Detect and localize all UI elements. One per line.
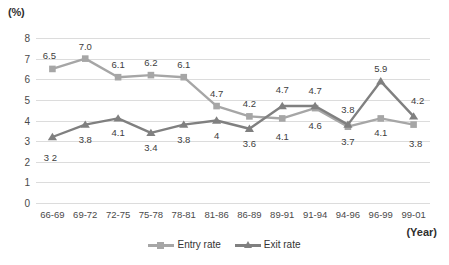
x-axis-tick-label: 66-69 bbox=[40, 209, 64, 220]
plot-area bbox=[36, 38, 430, 203]
gridline bbox=[36, 162, 430, 163]
data-point-label: 6.2 bbox=[144, 57, 157, 68]
data-point-label: 4.1 bbox=[374, 127, 387, 138]
x-axis-tick-labels: 66-6969-7272-7575-7878-8181-8686-8989-91… bbox=[36, 209, 430, 225]
gridline bbox=[36, 79, 430, 80]
exit-rate-marker-icon bbox=[235, 240, 261, 250]
x-axis-tick-label: 75-78 bbox=[139, 209, 163, 220]
legend-item-exit-rate[interactable]: Exit rate bbox=[235, 240, 301, 250]
y-axis-tick-label: 0 bbox=[6, 198, 30, 209]
legend-label-exit-rate: Exit rate bbox=[264, 240, 301, 250]
data-point-label: 3.6 bbox=[243, 137, 256, 148]
data-point-label: 3.7 bbox=[341, 135, 354, 146]
y-axis-tick-label: 2 bbox=[6, 156, 30, 167]
legend-item-entry-rate[interactable]: Entry rate bbox=[148, 240, 220, 250]
data-point-label: 4.6 bbox=[308, 120, 321, 131]
data-point-label: 4.2 bbox=[411, 95, 424, 106]
x-axis-tick-label: 69-72 bbox=[73, 209, 97, 220]
gridline bbox=[36, 100, 430, 101]
gridline bbox=[36, 141, 430, 142]
data-point-label: 6.1 bbox=[111, 59, 124, 70]
y-axis-tick-label: 1 bbox=[6, 177, 30, 188]
data-point-label: 3.8 bbox=[341, 103, 354, 114]
gridline bbox=[36, 59, 430, 60]
x-axis-tick-label: 91-94 bbox=[303, 209, 327, 220]
y-axis-tick-labels: 876543210 bbox=[0, 38, 30, 203]
data-point-label: 3.8 bbox=[409, 137, 422, 148]
data-point-label: 6.1 bbox=[177, 59, 190, 70]
x-axis-tick-label: 86-89 bbox=[237, 209, 261, 220]
data-point-label: 4.2 bbox=[243, 98, 256, 109]
y-axis-tick-label: 6 bbox=[6, 74, 30, 85]
y-axis-tick-label: 3 bbox=[6, 136, 30, 147]
x-axis-tick-label: 78-81 bbox=[172, 209, 196, 220]
y-axis-tick-label: 7 bbox=[6, 53, 30, 64]
x-axis-tick-label: 94-96 bbox=[336, 209, 360, 220]
x-axis-tick-label: 89-91 bbox=[270, 209, 294, 220]
y-axis-tick-label: 4 bbox=[6, 115, 30, 126]
gridline bbox=[36, 121, 430, 122]
gridline bbox=[36, 38, 430, 39]
x-axis-tick-label: 72-75 bbox=[106, 209, 130, 220]
gridline bbox=[36, 203, 430, 204]
x-axis-title: (Year) bbox=[406, 226, 437, 238]
entry-rate-marker-icon bbox=[148, 240, 174, 250]
data-point-label: 4 bbox=[214, 129, 219, 140]
data-point-label: 4.1 bbox=[276, 131, 289, 142]
y-axis-tick-label: 5 bbox=[6, 94, 30, 105]
y-axis-tick-label: 8 bbox=[6, 33, 30, 44]
data-point-label: 4.7 bbox=[276, 84, 289, 95]
data-point-label: 7.0 bbox=[79, 40, 92, 51]
data-point-label: 4.7 bbox=[308, 85, 321, 96]
data-point-label: 6.5 bbox=[43, 49, 56, 60]
data-point-label: 3.8 bbox=[79, 133, 92, 144]
line-chart: (%) 876543210 6.57.06.16.26.14.74.24.14.… bbox=[0, 0, 449, 265]
x-axis-tick-label: 81-86 bbox=[204, 209, 228, 220]
data-point-label: 3.4 bbox=[144, 141, 157, 152]
data-point-label: 4.7 bbox=[210, 88, 223, 99]
legend-label-entry-rate: Entry rate bbox=[177, 240, 220, 250]
chart-legend: Entry rate Exit rate bbox=[0, 240, 449, 250]
data-point-label: 5.9 bbox=[374, 63, 387, 74]
x-axis-tick-label: 99-01 bbox=[401, 209, 425, 220]
gridline bbox=[36, 182, 430, 183]
data-point-label: 3 2 bbox=[44, 152, 57, 163]
x-axis-tick-label: 96-99 bbox=[369, 209, 393, 220]
y-axis-title: (%) bbox=[8, 6, 25, 18]
data-point-label: 3.8 bbox=[177, 133, 190, 144]
data-point-label: 4.1 bbox=[111, 127, 124, 138]
